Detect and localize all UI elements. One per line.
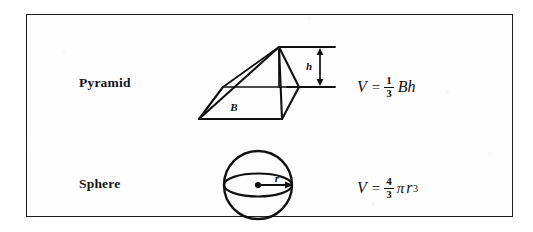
formula-pyramid-numerator: 1 (384, 75, 394, 87)
formula-sphere-equals: = (368, 180, 384, 197)
pyramid-base-left-edge (199, 87, 223, 119)
figure-frame: Pyramid (26, 14, 513, 217)
formula-sphere-denominator: 3 (384, 188, 394, 201)
formula-pyramid-fraction: 1 3 (384, 75, 394, 99)
formula-sphere: V = 4 3 π r3 (357, 176, 418, 200)
formula-pyramid-denominator: 3 (384, 87, 394, 100)
formula-pyramid-rest: Bh (396, 78, 416, 96)
pyramid-edge-left-apex (199, 47, 279, 119)
pyramid-edge-back-apex (223, 47, 279, 87)
formula-sphere-numerator: 4 (384, 176, 394, 188)
sphere-center-dot (255, 182, 261, 188)
pyramid-base-right-edge (282, 87, 299, 119)
formula-sphere-exponent: 3 (413, 183, 419, 194)
pyramid-diagram: B h (187, 37, 347, 133)
formula-sphere-rest: r (404, 179, 412, 197)
pyramid-svg: B h (187, 37, 347, 133)
pyramid-edge-right-apex (279, 47, 299, 87)
sphere-svg: r (215, 141, 305, 227)
formula-pyramid: V = 1 3 Bh (357, 75, 416, 99)
height-arrowhead-up (317, 48, 324, 55)
formula-pyramid-equals: = (368, 79, 384, 96)
formula-sphere-lhs: V (357, 179, 368, 197)
formula-sphere-pi: π (396, 180, 405, 197)
formula-pyramid-lhs: V (357, 78, 368, 96)
row-label-sphere: Sphere (79, 176, 120, 192)
formula-sphere-fraction: 4 3 (384, 176, 394, 200)
pyramid-height-letter: h (306, 60, 312, 72)
row-label-pyramid: Pyramid (79, 75, 131, 91)
height-arrowhead-down (317, 79, 324, 86)
sphere-radius-letter: r (275, 172, 280, 184)
pyramid-base-letter: B (229, 101, 237, 113)
sphere-diagram: r (215, 141, 305, 227)
